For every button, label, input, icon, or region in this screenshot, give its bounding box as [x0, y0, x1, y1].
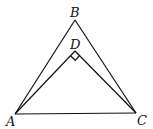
segment-bc [75, 20, 136, 113]
segment-dc [75, 51, 136, 113]
label-b: B [69, 5, 80, 20]
triangle-diagram: B D A C [0, 0, 153, 129]
segment-ab [15, 20, 75, 114]
right-angle-marker-icon [71, 56, 80, 61]
label-c: C [137, 113, 147, 128]
segment-ac [15, 113, 136, 114]
label-d: D [69, 37, 81, 52]
segment-ad [15, 51, 75, 114]
label-a: A [5, 114, 15, 129]
